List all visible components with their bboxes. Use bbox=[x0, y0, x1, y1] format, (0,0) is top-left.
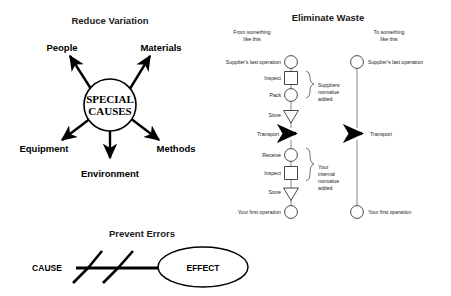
cause-label: CAUSE bbox=[32, 263, 62, 273]
fishbone-bone-lower-1 bbox=[73, 268, 88, 283]
fishbone-bone-lower-2 bbox=[103, 268, 118, 283]
prevent-errors-title: Prevent Errors bbox=[109, 228, 175, 239]
fishbone-bone-upper-1 bbox=[88, 251, 102, 268]
diagram-canvas: Reduce Variation SPECIAL CAUSES People M… bbox=[0, 0, 451, 296]
prevent-errors-diagram: Prevent Errors CAUSE EFFECT bbox=[0, 0, 451, 296]
effect-label: EFFECT bbox=[186, 263, 220, 273]
fishbone-bone-upper-2 bbox=[118, 251, 133, 268]
